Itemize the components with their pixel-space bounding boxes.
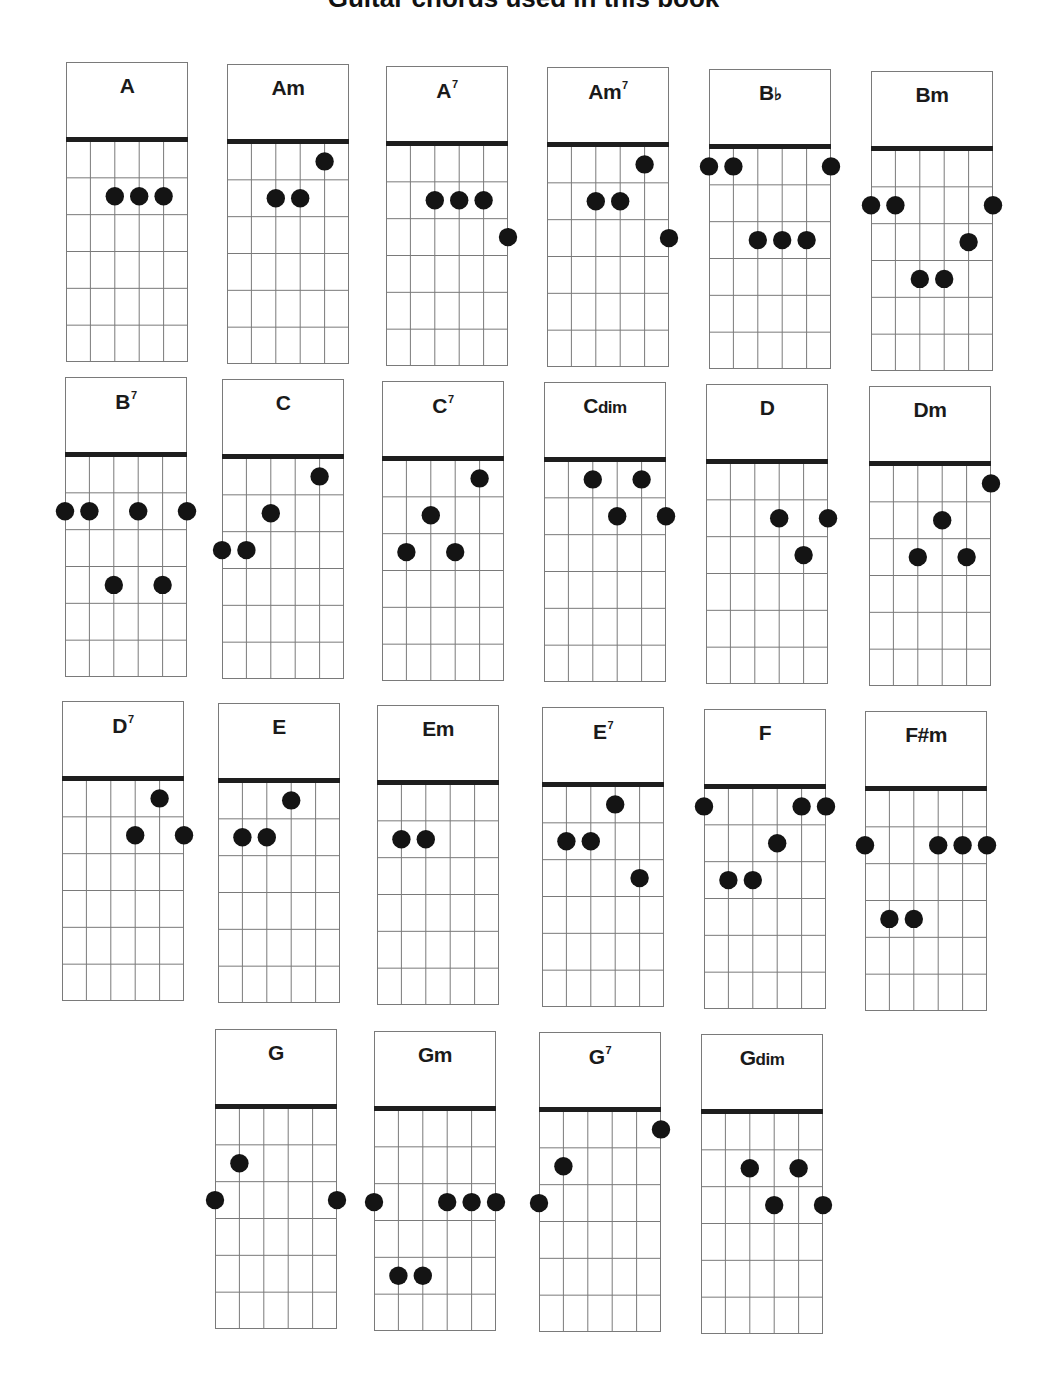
finger-dot (126, 826, 144, 844)
finger-dot (56, 502, 74, 520)
finger-dot (499, 228, 517, 246)
finger-dot (150, 789, 168, 807)
chord-name: Gm (374, 1043, 496, 1067)
finger-dot (282, 791, 300, 809)
finger-dot (794, 546, 812, 564)
finger-dot (880, 910, 898, 928)
fretboard-grid (227, 64, 349, 364)
finger-dot (582, 832, 600, 850)
chord-name: D7 (62, 713, 184, 738)
finger-dot (584, 470, 602, 488)
fretboard-grid (539, 1032, 661, 1332)
finger-dot (770, 509, 788, 527)
fretboard-grid (706, 384, 828, 684)
finger-dot (438, 1193, 456, 1211)
finger-dot (911, 270, 929, 288)
finger-dot (365, 1193, 383, 1211)
finger-dot (657, 507, 675, 525)
chord-diagram-f-sharpm: F#m (865, 711, 987, 1011)
chord-name: Cdim (544, 394, 666, 418)
finger-dot (258, 828, 276, 846)
chord-diagram-em: Em (377, 705, 499, 1005)
finger-dot (856, 836, 874, 854)
finger-dot (817, 797, 835, 815)
finger-dot (635, 155, 653, 173)
finger-dot (106, 187, 124, 205)
finger-dot (822, 157, 840, 175)
finger-dot (773, 231, 791, 249)
finger-dot (206, 1191, 224, 1209)
finger-dot (397, 543, 415, 561)
page-title: Guitar chords used in this book (0, 0, 1047, 14)
chord-name: G7 (539, 1044, 661, 1069)
finger-dot (80, 502, 98, 520)
fretboard-grid (542, 707, 664, 1007)
chord-name: Am7 (547, 79, 669, 104)
finger-dot (470, 469, 488, 487)
finger-dot (652, 1120, 670, 1138)
fretboard-grid (865, 711, 987, 1011)
chord-diagram-e7: E7 (542, 707, 664, 1007)
finger-dot (744, 871, 762, 889)
finger-dot (862, 196, 880, 214)
chord-diagram-dm: Dm (869, 386, 991, 686)
chord-name: E7 (542, 719, 664, 744)
finger-dot (792, 797, 810, 815)
fretboard-grid (704, 709, 826, 1009)
chord-diagram-g7: G7 (539, 1032, 661, 1332)
chord-name: Em (377, 717, 499, 741)
finger-dot (819, 509, 837, 527)
chord-diagram-am: Am (227, 64, 349, 364)
finger-dot (446, 543, 464, 561)
finger-dot (554, 1157, 572, 1175)
finger-dot (310, 467, 328, 485)
finger-dot (953, 836, 971, 854)
chord-diagram-c: C (222, 379, 344, 679)
chord-name: G (215, 1041, 337, 1065)
finger-dot (291, 189, 309, 207)
finger-dot (695, 797, 713, 815)
finger-dot (328, 1191, 346, 1209)
finger-dot (959, 233, 977, 251)
fretboard-grid (701, 1034, 823, 1334)
finger-dot (557, 832, 575, 850)
chord-name: F (704, 721, 826, 745)
chord-name: B7 (65, 389, 187, 414)
finger-dot (450, 191, 468, 209)
finger-dot (768, 834, 786, 852)
finger-dot (154, 187, 172, 205)
finger-dot (630, 869, 648, 887)
finger-dot (632, 470, 650, 488)
finger-dot (130, 187, 148, 205)
finger-dot (129, 502, 147, 520)
fretboard-grid (386, 66, 508, 366)
finger-dot (700, 157, 718, 175)
finger-dot (789, 1159, 807, 1177)
finger-dot (426, 191, 444, 209)
finger-dot (175, 826, 193, 844)
fretboard-grid (382, 381, 504, 681)
chord-diagram-cdim: Cdim (544, 382, 666, 682)
finger-dot (905, 910, 923, 928)
fretboard-grid (374, 1031, 496, 1331)
finger-dot (233, 828, 251, 846)
fretboard-grid (65, 377, 187, 677)
fretboard-grid (218, 703, 340, 1003)
chord-diagram-e: E (218, 703, 340, 1003)
finger-dot (741, 1159, 759, 1177)
fretboard-grid (66, 62, 188, 362)
finger-dot (606, 795, 624, 813)
finger-dot (984, 196, 1002, 214)
finger-dot (749, 231, 767, 249)
finger-dot (213, 541, 231, 559)
fretboard-grid (869, 386, 991, 686)
fretboard-grid (377, 705, 499, 1005)
fretboard-grid (215, 1029, 337, 1329)
finger-dot (392, 830, 410, 848)
finger-dot (315, 152, 333, 170)
finger-dot (978, 836, 996, 854)
finger-dot (765, 1196, 783, 1214)
finger-dot (267, 189, 285, 207)
finger-dot (957, 548, 975, 566)
finger-dot (929, 836, 947, 854)
